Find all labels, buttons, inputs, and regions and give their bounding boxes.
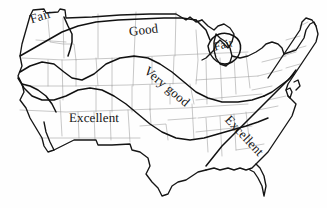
map-svg (0, 0, 327, 208)
us-resource-quality-map: Fair Good Fair Very good Excellent Excel… (0, 0, 327, 208)
